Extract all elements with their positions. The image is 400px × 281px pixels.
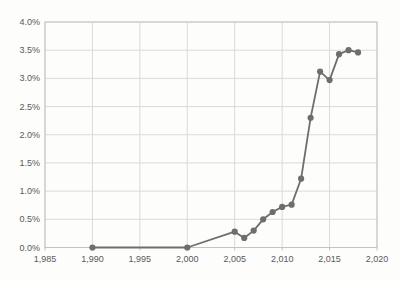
- data-point-marker: [345, 47, 351, 53]
- x-axis-tick-label: 1,995: [129, 254, 152, 264]
- data-point-marker: [241, 235, 247, 241]
- data-point-marker: [308, 115, 314, 121]
- tick-labels: 0.0%0.5%1.0%1.5%2.0%2.5%3.0%3.5%4.0%1,98…: [19, 17, 388, 264]
- data-point-marker: [317, 69, 323, 75]
- x-axis-tick-label: 2,000: [176, 254, 199, 264]
- x-axis-tick-label: 2,010: [271, 254, 294, 264]
- data-point-marker: [326, 77, 332, 83]
- chart-screenshot: 0.0%0.5%1.0%1.5%2.0%2.5%3.0%3.5%4.0%1,98…: [0, 0, 400, 281]
- x-axis-tick-label: 1,990: [81, 254, 104, 264]
- y-axis-tick-label: 3.5%: [19, 45, 40, 55]
- y-axis-tick-label: 0.5%: [19, 214, 40, 224]
- y-axis-tick-label: 1.5%: [19, 158, 40, 168]
- data-point-marker: [298, 176, 304, 182]
- x-axis-tick-label: 2,005: [223, 254, 246, 264]
- data-point-marker: [355, 49, 361, 55]
- data-point-marker: [251, 227, 257, 233]
- y-axis-tick-label: 0.0%: [19, 243, 40, 253]
- x-axis-tick-label: 1,985: [34, 254, 57, 264]
- data-point-marker: [184, 244, 190, 250]
- y-axis-tick-label: 3.0%: [19, 73, 40, 83]
- data-point-marker: [336, 51, 342, 57]
- data-point-marker: [89, 244, 95, 250]
- data-point-marker: [260, 216, 266, 222]
- y-axis-tick-label: 2.0%: [19, 130, 40, 140]
- x-axis-tick-label: 2,015: [318, 254, 341, 264]
- data-point-marker: [279, 204, 285, 210]
- line-chart: 0.0%0.5%1.0%1.5%2.0%2.5%3.0%3.5%4.0%1,98…: [0, 0, 400, 281]
- data-point-marker: [270, 209, 276, 215]
- y-axis-tick-label: 1.0%: [19, 186, 40, 196]
- y-axis-tick-label: 4.0%: [19, 17, 40, 27]
- y-axis-tick-label: 2.5%: [19, 102, 40, 112]
- data-series: [89, 47, 361, 251]
- data-point-marker: [289, 202, 295, 208]
- gridlines: [45, 22, 377, 248]
- x-axis-tick-label: 2,020: [366, 254, 389, 264]
- data-point-marker: [232, 229, 238, 235]
- data-series-line: [92, 50, 358, 247]
